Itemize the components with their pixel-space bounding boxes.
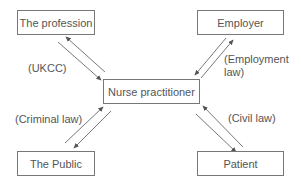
node-label: Employer xyxy=(217,17,263,29)
relation-label-ukcc: (UKCC) xyxy=(28,62,67,75)
node-employer: Employer xyxy=(197,10,284,35)
node-the-public: The Public xyxy=(17,151,95,176)
node-nurse-practitioner: Nurse practitioner xyxy=(103,79,200,104)
relation-label-criminal-law: (Criminal law) xyxy=(15,113,82,126)
node-label: Patient xyxy=(223,158,257,170)
relation-label-employment-law-line2: law) xyxy=(224,66,244,79)
node-the-profession: The profession xyxy=(17,10,95,35)
node-label: The profession xyxy=(20,17,93,29)
node-label: Nurse practitioner xyxy=(108,86,195,98)
relation-label-civil-law: (Civil law) xyxy=(228,112,276,125)
relation-label-employment-law-line1: (Employment xyxy=(224,53,289,66)
node-patient: Patient xyxy=(197,151,284,176)
node-label: The Public xyxy=(30,158,82,170)
